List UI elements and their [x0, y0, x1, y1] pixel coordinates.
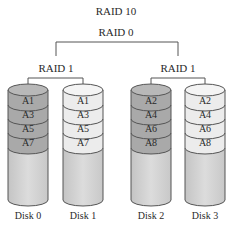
disk-2-block-4: A8: [145, 137, 157, 148]
disk-1-block-4: A7: [77, 137, 89, 148]
disk-0-block-2: A3: [22, 109, 34, 120]
disk-1-block-3: A5: [77, 123, 89, 134]
disk-0-label: Disk 0: [15, 210, 41, 221]
disk-2-block-1: A2: [145, 95, 157, 106]
raid0-label: RAID 0: [98, 26, 134, 38]
raid1-label-left: RAID 1: [38, 62, 73, 74]
raid10-title: RAID 10: [96, 5, 137, 17]
raid0-bracket: [56, 42, 178, 56]
disk-3-block-3: A6: [199, 123, 211, 134]
disk-2-block-2: A4: [145, 109, 157, 120]
disk-2-block-3: A6: [145, 123, 157, 134]
raid1-label-right: RAID 1: [160, 62, 195, 74]
disk-1-label: Disk 1: [70, 210, 96, 221]
disk-3-block-1: A2: [199, 95, 211, 106]
disk-0-block-4: A7: [22, 137, 34, 148]
disk-3-label: Disk 3: [192, 210, 218, 221]
disk-3-block-4: A8: [199, 137, 211, 148]
disk-1-block-2: A3: [77, 109, 89, 120]
disk-0-block-1: A1: [22, 95, 34, 106]
disk-1-block-1: A1: [77, 95, 89, 106]
disk-0-block-3: A5: [22, 123, 34, 134]
disk-2-label: Disk 2: [138, 210, 164, 221]
raid10-diagram: RAID 10 RAID 0 RAID 1 RAID 1 A1 A3 A5 A7…: [0, 0, 236, 229]
disk-3-block-2: A4: [199, 109, 211, 120]
